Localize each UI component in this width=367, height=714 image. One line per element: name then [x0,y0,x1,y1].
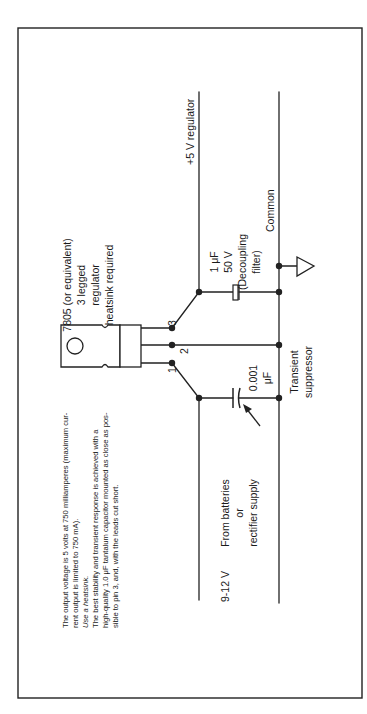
regulator-label-2: 3 legged [75,265,87,305]
suppressor-capacitor [233,388,240,408]
suppressor-cap-value: 0.001 [247,365,259,391]
input-source-3: rectifier supply [247,478,259,546]
note-line: rent output is limited to 750 mA). [71,519,80,628]
input-voltage-label: 9-12 V [219,571,231,602]
junction-dot [276,395,282,401]
regulator-label-1: 7805 (or equivalent) [61,238,73,331]
circuit-diagram: +5 V regulator Common 7805 (or equivalen… [0,0,367,714]
pin-1-label: 1 [166,367,178,373]
suppressor-label-2: suppressor [302,346,314,398]
junction-dot [196,289,202,295]
junction-dot [276,289,282,295]
input-source-2: or [233,508,245,518]
decoupling-cap-voltage: 50 V [222,251,234,273]
note-line: high-quality 1.0 μF tantalum capacitor m… [101,412,110,628]
junction-dot [276,263,282,269]
ground-icon [297,257,314,276]
note-line: The best stability and transient respons… [91,429,100,628]
note-line: sible to pin 3, and, with the leads cut … [111,484,120,628]
suppressor-label-1: Transient [288,350,300,393]
suppressor-arrow-icon [243,404,260,426]
junction-dot [196,395,202,401]
pin-3-label: 3 [166,320,178,326]
decoupling-cap-desc-2: filter) [250,250,262,273]
input-source-1: From batteries [219,479,231,547]
output-label: +5 V regulator [184,98,196,165]
regulator-package-icon [61,325,141,367]
decoupling-cap-value: 1 μF [208,251,220,272]
pin-2-dot [169,342,175,348]
pin-1-dot [169,360,175,366]
pin-2-label: 2 [178,348,190,354]
note-line: Use a heatsink. [81,576,90,628]
decoupling-cap-desc-1: (Decoupling [236,234,248,290]
note-line: The output voltage is 5 volts at 750 mil… [61,412,70,628]
junction-dot [276,342,282,348]
regulator-label-3: regulator [89,264,101,306]
common-label: Common [264,189,276,232]
regulator-label-4: heatsink required [103,245,115,326]
suppressor-cap-unit: μF [261,372,273,384]
